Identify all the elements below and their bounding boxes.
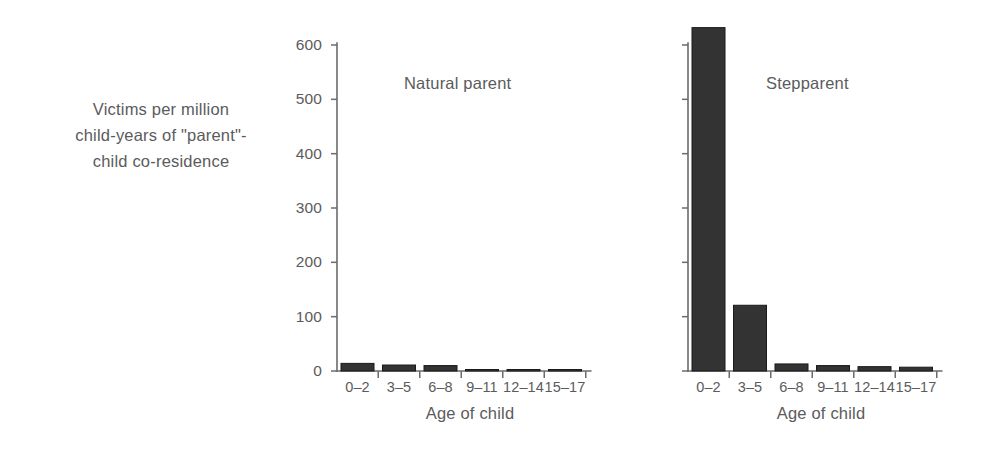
x-axis-tick-label: 15–17 bbox=[896, 379, 937, 395]
stepparent-x-axis-title: Age of child bbox=[726, 404, 916, 423]
stepparent-title: Stepparent bbox=[766, 74, 849, 93]
bar bbox=[692, 28, 725, 371]
x-axis-tick-label: 12–14 bbox=[854, 379, 895, 395]
bar bbox=[858, 367, 891, 371]
bar bbox=[817, 366, 850, 371]
stepparent-tick-labels: 0–23–56–89–1112–1415–17 bbox=[0, 379, 994, 399]
bar bbox=[900, 367, 933, 371]
x-axis-tick-label: 0–2 bbox=[696, 379, 721, 395]
stepparent-plot bbox=[0, 0, 994, 420]
x-axis-tick-label: 6–8 bbox=[779, 379, 804, 395]
x-axis-tick-label: 3–5 bbox=[738, 379, 763, 395]
bar bbox=[775, 364, 808, 371]
bar bbox=[734, 305, 767, 371]
figure-root: Victims per million child-years of "pare… bbox=[0, 0, 994, 455]
panel-stepparent: Stepparent 0–23–56–89–1112–1415–17 Age o… bbox=[0, 0, 994, 455]
x-axis-tick-label: 9–11 bbox=[817, 379, 849, 395]
